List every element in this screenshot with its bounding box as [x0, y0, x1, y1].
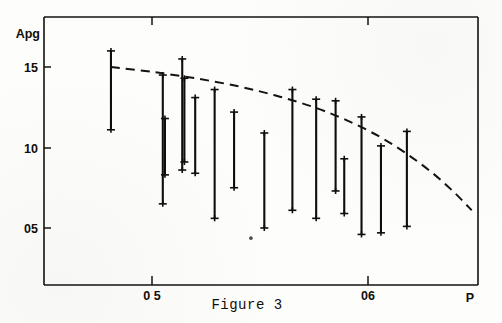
range-bar-7 — [230, 109, 238, 191]
range-bar-0 — [107, 48, 115, 133]
ink-speck-annotations — [249, 236, 253, 240]
range-bar-8 — [260, 130, 268, 231]
x-axis-title: P — [466, 291, 474, 305]
y-tick-label-10: 10 — [24, 142, 38, 156]
chart-plot-area: 15 10 05 Apg 0 5 06 P Figure 3 — [0, 0, 502, 323]
range-bar-12 — [340, 156, 348, 217]
range-bar-15 — [403, 128, 411, 229]
range-bar-5 — [191, 95, 199, 177]
y-axis-title: Apg — [16, 27, 40, 41]
range-bar-13 — [358, 114, 366, 238]
range-bar-10 — [312, 96, 320, 221]
ink-speck-0 — [249, 236, 253, 240]
range-bar-11 — [332, 98, 340, 194]
x-tick-label-06: 06 — [361, 289, 375, 303]
range-bar-9 — [288, 87, 296, 214]
range-bar-14 — [377, 143, 385, 236]
y-tick-label-05: 05 — [24, 222, 38, 236]
figure-canvas: 15 10 05 Apg 0 5 06 P Figure 3 — [0, 0, 502, 323]
y-tick-label-15: 15 — [24, 61, 38, 75]
range-bars-series — [107, 48, 411, 238]
x-tick-label-05: 0 5 — [143, 289, 160, 303]
range-bar-6 — [211, 87, 219, 222]
figure-caption: Figure 3 — [211, 297, 282, 313]
y-axis-ticks — [44, 67, 51, 228]
